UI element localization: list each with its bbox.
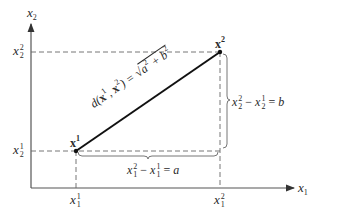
tick-x-x1-1: x11 [70, 193, 81, 209]
vertical-brace [223, 54, 230, 148]
horizontal-brace [78, 152, 218, 159]
horizontal-difference-label: x21 − x11 = a [127, 163, 179, 179]
tick-y-x2-2: x22 [13, 44, 24, 60]
y-axis-label: x2 [27, 6, 37, 19]
vertical-difference-label: x22 − x12 = b [232, 95, 284, 111]
x-axis-label: x1 [298, 181, 308, 194]
distance-diagram [0, 0, 341, 214]
tick-x-x1-2: x21 [214, 193, 225, 209]
tick-y-x2-1: x12 [13, 143, 24, 159]
point-label-x2: x2 [215, 38, 225, 50]
point-label-x1: x1 [70, 137, 80, 149]
